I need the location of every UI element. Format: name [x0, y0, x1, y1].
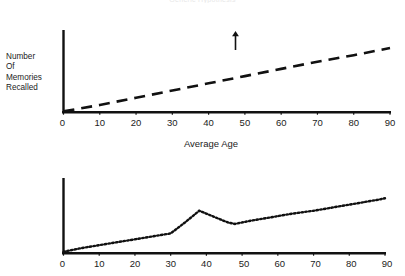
x-tick-label: 90: [382, 258, 393, 269]
y-axis-arrow-icon: [33, 31, 47, 51]
top-chart-series-line: [64, 48, 391, 111]
x-tick-label: 80: [348, 117, 359, 128]
y-axis-label: Number Of Memories Recalled: [6, 52, 58, 94]
x-tick-label: 10: [94, 117, 105, 128]
figure-title: Generic Hypothesis: [0, 0, 405, 3]
y-axis-label-line-4: Recalled: [6, 83, 58, 93]
x-tick-label: 60: [275, 258, 286, 269]
x-tick-label: 50: [240, 117, 251, 128]
x-tick-label: 90: [385, 117, 396, 128]
x-tick-label: 30: [167, 117, 178, 128]
y-axis-label-line-2: Of: [6, 62, 58, 72]
x-tick-label: 40: [203, 117, 214, 128]
x-tick-label: 30: [165, 258, 176, 269]
y-axis-label-line-1: Number: [6, 52, 58, 62]
top-x-axis-title: Average Age: [184, 138, 238, 149]
top-chart-tick-labels: 0102030405060708090: [60, 117, 395, 128]
top-chart: Number Of Memories Recalled 010203040506…: [0, 14, 405, 150]
bottom-chart-plot: 0102030405060708090: [0, 160, 405, 276]
x-tick-label: 80: [346, 258, 357, 269]
x-tick-label: 50: [239, 258, 250, 269]
x-tick-label: 70: [312, 117, 323, 128]
figure-container: Generic Hypothesis Number Of Memories Re…: [0, 0, 405, 276]
x-tick-label: 20: [130, 258, 141, 269]
bottom-chart-tick-labels: 0102030405060708090: [60, 258, 392, 269]
x-tick-label: 0: [60, 117, 65, 128]
x-tick-label: 40: [201, 258, 212, 269]
x-tick-label: 70: [310, 258, 321, 269]
x-tick-label: 10: [94, 258, 105, 269]
bottom-chart: 0102030405060708090: [0, 160, 405, 276]
y-axis-label-line-3: Memories: [6, 73, 58, 83]
bottom-chart-series-line: [64, 198, 386, 251]
bottom-chart-axes: [62, 178, 386, 254]
x-tick-label: 60: [276, 117, 287, 128]
x-tick-label: 0: [60, 258, 65, 269]
x-tick-label: 20: [131, 117, 142, 128]
